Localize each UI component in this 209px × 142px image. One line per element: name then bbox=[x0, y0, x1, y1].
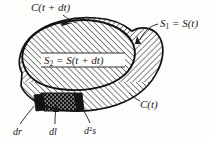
label-element-dr-text: dr bbox=[13, 126, 22, 137]
label-surface-2: S2 = S(t + dt) bbox=[44, 55, 104, 67]
label-curve-outer-text: C(t + dt) bbox=[31, 1, 70, 13]
label-element-dl: dl bbox=[49, 127, 57, 137]
label-surface-1-equation: = S(t) bbox=[169, 17, 198, 29]
label-surface-2-equation: = S(t + dt) bbox=[53, 54, 103, 66]
label-element-d2s: d2s bbox=[84, 126, 96, 136]
label-curve-inner-text: C(t) bbox=[140, 98, 158, 110]
label-element-d2s-tail: s bbox=[92, 125, 96, 136]
label-curve-inner: C(t) bbox=[140, 99, 158, 110]
label-element-dl-text: dl bbox=[49, 126, 57, 137]
label-element-dr: dr bbox=[13, 127, 22, 137]
label-curve-outer: C(t + dt) bbox=[31, 2, 70, 13]
differential-element-patch bbox=[34, 93, 84, 111]
vector-calculus-figure: C(t + dt) S1 = S(t) S2 = S(t + dt) C(t) … bbox=[0, 0, 209, 142]
leader-dr bbox=[20, 106, 34, 124]
label-surface-1: S1 = S(t) bbox=[160, 18, 198, 30]
